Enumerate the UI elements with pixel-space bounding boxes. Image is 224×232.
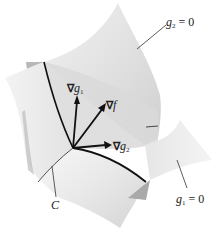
label-grad-g1: ∇g1 — [67, 82, 84, 96]
nabla-icon: ∇ — [106, 99, 113, 111]
label-curve-c: C — [51, 199, 59, 211]
label-grad-g2: ∇g2 — [113, 140, 130, 154]
label-grad-f: ∇f — [106, 99, 116, 111]
label-g1-eq-0: g1 = 0 — [176, 193, 204, 207]
label-g2-eq-0: g2 = 0 — [166, 16, 194, 30]
leader-g2 — [137, 25, 166, 49]
nabla-icon: ∇ — [113, 140, 120, 152]
nabla-icon: ∇ — [67, 82, 74, 94]
